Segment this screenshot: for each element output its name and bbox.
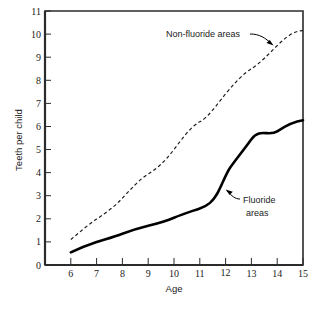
x-tick-label: 9 xyxy=(146,268,151,279)
y-axis-tick-labels: 0 1 2 3 4 5 6 7 8 9 10 11 xyxy=(31,6,41,271)
fluoride-annotation-label-line1: Fluoride xyxy=(243,195,276,205)
x-tick-label: 8 xyxy=(120,268,125,279)
y-tick-label: 4 xyxy=(36,167,41,178)
y-tick-label: 2 xyxy=(36,213,41,224)
line-chart-canvas: 0 1 2 3 4 5 6 7 8 9 10 11 xyxy=(0,0,319,309)
fluoride-arrow-icon xyxy=(226,190,233,195)
y-tick-label: 3 xyxy=(36,190,41,201)
y-tick-label: 5 xyxy=(36,144,41,155)
x-tick-label: 11 xyxy=(195,268,205,279)
x-tick-label: 12 xyxy=(221,267,231,278)
y-axis-title: Teeth per child xyxy=(13,109,24,171)
y-tick-label: 1 xyxy=(36,236,41,247)
fluoride-annotation-label-line2: areas xyxy=(246,208,269,218)
y-tick-label: 9 xyxy=(36,52,41,63)
chart-figure: 0 1 2 3 4 5 6 7 8 9 10 11 xyxy=(0,0,319,309)
x-tick-label: 15 xyxy=(298,268,308,279)
non-fluoride-annotation: Non-fluoride areas xyxy=(166,29,274,45)
y-tick-label: 7 xyxy=(36,98,41,109)
series-line-fluoride xyxy=(71,120,303,252)
x-tick-label: 10 xyxy=(169,268,179,279)
y-tick-label: 6 xyxy=(36,121,41,132)
non-fluoride-annotation-label: Non-fluoride areas xyxy=(166,29,241,39)
x-tick-label: 6 xyxy=(68,268,73,279)
x-tick-label: 7 xyxy=(94,268,99,279)
plot-frame xyxy=(45,11,303,265)
x-axis-tick-labels: 6 7 8 9 10 11 12 13 14 15 xyxy=(68,267,308,279)
fluoride-annotation: Fluoride areas xyxy=(226,190,276,218)
x-tick-label: 14 xyxy=(272,268,282,279)
x-tick-label: 13 xyxy=(246,268,256,279)
y-tick-label: 10 xyxy=(31,29,41,40)
y-tick-label: 0 xyxy=(36,260,41,271)
y-tick-label: 8 xyxy=(36,75,41,86)
y-tick-label: 11 xyxy=(31,6,41,17)
x-axis-title: Age xyxy=(166,283,183,294)
